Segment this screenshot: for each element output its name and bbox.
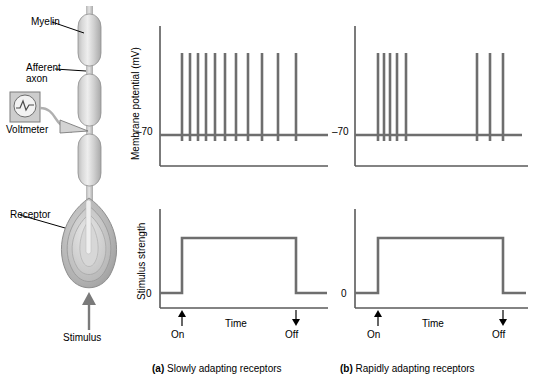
caption-b-tag: (b) [340,363,353,374]
afferent-axon-label-line1: Afferent [26,62,61,74]
myelin-segment-2 [78,74,101,126]
receptor-nerve-terminal [86,200,91,254]
panel-b-on-arrow-head [374,310,382,317]
panel-a-on-arrow-head [178,310,186,317]
membrane-potential-tick-label: –70 [136,126,153,138]
caption-b: (b) Rapidly adapting receptors [340,363,475,374]
panel-b-off-arrow-head [499,319,507,326]
membrane-potential-tick-label-b: –70 [332,126,349,138]
panel-a-off-label: Off [285,329,298,341]
stimulus-arrow-head [82,292,96,305]
panel-a-stimulus-pulse [160,238,327,293]
stimulus-tick-label-a: 0 [146,288,152,300]
membrane-potential-axis-label: Membrane potential (mV) [130,47,141,160]
caption-b-text: Rapidly adapting receptors [356,363,475,374]
receptor-label: Receptor [10,209,51,221]
panel-a-time-label: Time [225,318,247,330]
panel-b-stimulus-pulse [355,238,526,293]
panel-b-spike-chart [350,18,532,178]
panel-a-stimulus-chart [155,205,330,320]
myelin-segment-1 [78,14,101,66]
panel-a-spike-chart [155,18,330,178]
stimulus-label: Stimulus [63,332,101,344]
panel-b-on-label: On [367,329,380,341]
panel-b-time-label: Time [422,318,444,330]
myelin-segment-3 [78,134,101,186]
voltmeter-label: Voltmeter [6,124,48,136]
panel-a-on-label: On [171,329,184,341]
panel-b-onset-burst-spikes [378,53,406,141]
stimulus-tick-label-b: 0 [341,288,347,300]
neuron-diagram [0,0,140,350]
panel-b-off-label: Off [492,329,505,341]
panel-a-off-arrow-head [292,319,300,326]
panel-b-stimulus-chart [350,205,532,320]
panel-b-offset-burst-spikes [477,53,503,141]
caption-a: (a) Slowly adapting receptors [152,363,282,374]
figure-root: Myelin Afferent axon Voltmeter Receptor … [0,0,536,389]
caption-a-text: Slowly adapting receptors [167,363,282,374]
caption-a-tag: (a) [152,363,164,374]
myelin-label: Myelin [31,16,60,28]
panel-a-spikes [182,53,296,141]
afferent-axon-label-line2: axon [26,73,48,85]
